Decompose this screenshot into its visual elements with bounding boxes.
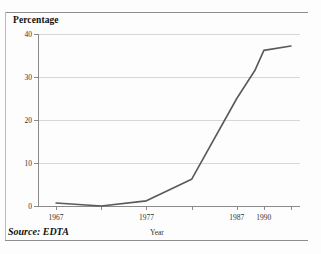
y-tick-label: 0 — [28, 202, 32, 211]
x-axis-title: Year — [150, 228, 164, 237]
y-tick-label: 40 — [25, 30, 33, 39]
x-tick-label: 1967 — [49, 213, 64, 222]
y-tick-label: 20 — [25, 116, 33, 125]
x-tick-label: 1987 — [229, 213, 244, 222]
chart-title: Percentage — [13, 15, 59, 25]
chart-figure: Percentage 010203040 1967197719871990 Ye… — [0, 0, 321, 254]
left-border — [5, 12, 6, 241]
series-line-percentage — [56, 46, 291, 206]
bottom-divider — [5, 240, 308, 241]
series-plot — [38, 34, 300, 206]
x-axis-line — [38, 206, 300, 207]
top-divider — [5, 12, 308, 13]
x-tick-label: 1977 — [139, 213, 154, 222]
y-tick-label: 10 — [25, 159, 33, 168]
x-tick-label: 1990 — [256, 213, 271, 222]
y-tick-label: 30 — [25, 73, 33, 82]
plot-area: 010203040 1967197719871990 — [38, 34, 300, 206]
source-note: Source: EDTA — [8, 226, 69, 237]
